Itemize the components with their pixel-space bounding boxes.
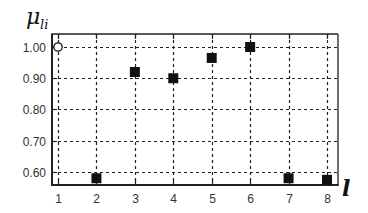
grid-lines (52, 34, 338, 185)
y-axis-title-sub: li (40, 17, 48, 32)
data-points (54, 42, 332, 185)
x-tick-label: 5 (209, 192, 216, 206)
scatter-chart: 1.000.900.800.700.60 12345678 μ li l (0, 0, 368, 213)
data-point-open-circle (54, 43, 62, 51)
y-tick-label: 0.70 (23, 135, 47, 149)
x-tick-label: 1 (55, 192, 62, 206)
y-tick-label: 0.80 (23, 103, 47, 117)
x-tick-label: 3 (132, 192, 139, 206)
y-axis-title: μ li (26, 4, 48, 32)
y-tick-label: 0.60 (23, 166, 47, 180)
x-tick-label: 6 (247, 192, 254, 206)
x-tick-label: 4 (170, 192, 177, 206)
y-tick-label: 0.90 (23, 72, 47, 86)
data-point-filled-square (207, 53, 217, 63)
y-tick-label: 1.00 (23, 41, 47, 55)
data-point-filled-square (245, 42, 255, 52)
data-point-filled-square (91, 173, 101, 183)
data-point-filled-square (130, 67, 140, 77)
data-point-filled-square (322, 175, 332, 185)
x-tick-label: 8 (324, 192, 331, 206)
data-point-filled-square (284, 173, 294, 183)
data-point-filled-square (168, 73, 178, 83)
x-axis-title: l (342, 175, 350, 201)
x-tick-label: 2 (93, 192, 100, 206)
x-tick-label: 7 (286, 192, 293, 206)
y-axis-title-main: μ (26, 4, 40, 29)
